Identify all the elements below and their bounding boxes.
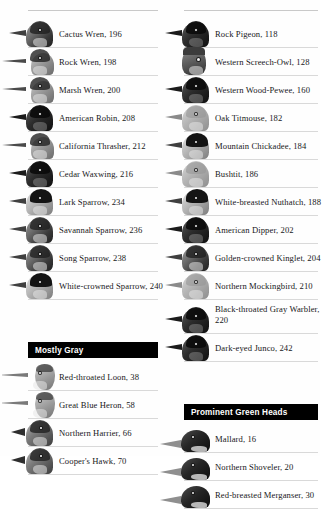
bird-head-body xyxy=(35,392,55,418)
bird-head-crown xyxy=(186,245,206,258)
bird-head-throat xyxy=(33,206,47,215)
bird-head-eye xyxy=(195,343,197,345)
bird-head-throat xyxy=(189,178,203,187)
list-item[interactable]: California Thrasher, 212 xyxy=(28,132,158,160)
bird-head-eye xyxy=(39,400,41,402)
list-item[interactable]: Northern Shoveler, 20 xyxy=(184,453,318,481)
bird-head-throat xyxy=(189,234,203,243)
list-item[interactable]: Northern Mockingbird, 210 xyxy=(184,272,318,300)
list-item[interactable]: Red-breasted Merganser, 30 xyxy=(184,481,318,509)
list-item-label: White-crowned Sparrow, 240 xyxy=(59,280,167,291)
bird-head-rock-wren-icon xyxy=(2,47,56,75)
list-item-label: White-breasted Nuthatch, 188 xyxy=(215,196,326,207)
bird-head-throat xyxy=(191,446,207,452)
bird-head-american-robin-icon xyxy=(2,103,56,131)
bird-head-eye xyxy=(39,85,41,87)
bird-head-beak xyxy=(2,87,26,91)
list-item[interactable]: Cooper's Hawk, 70 xyxy=(28,447,158,475)
list-item[interactable]: Mountain Chickadee, 184 xyxy=(184,132,318,160)
list-item[interactable]: Northern Harrier, 66 xyxy=(28,419,158,447)
bird-head-throat xyxy=(189,150,203,159)
list-item[interactable]: Rock Wren, 198 xyxy=(28,48,158,76)
bird-head-beak xyxy=(165,226,182,232)
bird-head-body xyxy=(26,106,53,131)
bird-head-crown xyxy=(30,161,50,174)
section-header: Prominent Green Heads xyxy=(184,404,318,420)
bird-head-eye xyxy=(39,57,41,59)
bird-head-red-breasted-merganser-icon xyxy=(158,480,212,508)
list-item[interactable]: Great Blue Heron, 58 xyxy=(28,391,158,419)
bird-head-eye xyxy=(195,141,197,143)
bird-head-eye xyxy=(192,492,194,494)
list-item[interactable]: Western Screech-Owl, 128 xyxy=(184,48,318,76)
bird-head-eye xyxy=(195,253,197,255)
list-item[interactable]: Rock Pigeon, 118 xyxy=(184,20,318,48)
right-column: Rock Pigeon, 118Western Screech-Owl, 128… xyxy=(160,10,320,456)
bird-head-western-screech-owl-icon xyxy=(158,47,212,75)
bird-head-beak xyxy=(165,114,182,120)
bird-head-throat xyxy=(33,150,47,159)
bird-head-body xyxy=(182,48,206,75)
bird-head-body xyxy=(26,22,53,47)
list-item-label: Black-throated Gray Warbler, 220 xyxy=(215,304,326,325)
bird-head-black-throated-gray-warbler-icon xyxy=(158,303,212,333)
list-item[interactable]: Bushtit, 186 xyxy=(184,160,318,188)
bird-head-throat xyxy=(189,38,203,47)
list-item[interactable]: White-crowned Sparrow, 240 xyxy=(28,272,158,300)
bird-head-body xyxy=(31,53,54,75)
bird-head-body xyxy=(26,246,53,271)
bird-head-body xyxy=(182,308,209,333)
bird-head-body xyxy=(181,486,210,508)
list-item[interactable]: American Robin, 208 xyxy=(28,104,158,132)
bird-head-beak xyxy=(9,114,26,120)
right-column-body: Rock Pigeon, 118Western Screech-Owl, 128… xyxy=(184,20,320,509)
list-item[interactable]: Oak Titmouse, 182 xyxy=(184,104,318,132)
list-item-label: Red-breasted Merganser, 30 xyxy=(215,489,326,500)
bird-head-throat xyxy=(189,66,203,75)
list-item[interactable]: Mallard, 16 xyxy=(184,425,318,453)
list-item-label: Rock Pigeon, 118 xyxy=(215,28,326,39)
bird-head-golden-crowned-kinglet-icon xyxy=(158,243,212,271)
bird-head-marsh-wren-icon xyxy=(2,75,56,103)
bird-head-beak xyxy=(2,401,28,405)
bird-head-body xyxy=(182,106,209,131)
bird-head-oak-titmouse-icon xyxy=(158,103,212,131)
list-item[interactable]: Cedar Waxwing, 216 xyxy=(28,160,158,188)
list-item[interactable]: Golden-crowned Kinglet, 204 xyxy=(184,244,318,272)
bird-head-white-crowned-sparrow-icon xyxy=(2,271,56,299)
bird-head-body xyxy=(31,81,54,103)
list-item[interactable]: White-breasted Nuthatch, 188 xyxy=(184,188,318,216)
list-item[interactable]: Western Wood-Pewee, 160 xyxy=(184,76,318,104)
list-item[interactable]: Dark-eyed Junco, 242 xyxy=(184,334,318,362)
list-item-label: Northern Shoveler, 20 xyxy=(215,461,326,472)
bird-head-crown xyxy=(186,189,208,203)
list-item[interactable]: Red-throated Loon, 38 xyxy=(28,363,158,391)
bird-head-throat xyxy=(33,465,47,474)
bird-head-eye xyxy=(39,29,41,31)
bird-head-eye xyxy=(197,58,200,61)
bird-head-throat xyxy=(33,409,47,418)
list-item[interactable]: Black-throated Gray Warbler, 220 xyxy=(184,300,318,334)
bird-head-crown xyxy=(30,217,50,230)
bird-head-western-wood-pewee-icon xyxy=(158,75,212,103)
list-item[interactable]: Cactus Wren, 196 xyxy=(28,20,158,48)
bird-head-cedar-waxwing-icon xyxy=(2,159,56,187)
list-item[interactable]: Savannah Sparrow, 236 xyxy=(28,216,158,244)
list-item[interactable]: Marsh Wren, 200 xyxy=(28,76,158,104)
bird-head-throat xyxy=(33,234,47,243)
bird-head-crown xyxy=(30,21,50,34)
bird-head-throat xyxy=(33,66,47,75)
bird-head-eye xyxy=(39,141,41,143)
list-item[interactable]: American Dipper, 202 xyxy=(184,216,318,244)
bird-head-eye xyxy=(195,225,197,227)
bird-head-eye xyxy=(39,113,41,115)
bird-head-eye xyxy=(195,113,197,115)
bird-head-crown xyxy=(186,273,206,286)
bird-head-beak xyxy=(165,316,182,322)
bird-head-body xyxy=(181,458,210,480)
bird-head-eye xyxy=(192,436,194,438)
list-item[interactable]: Song Sparrow, 238 xyxy=(28,244,158,272)
section-gap xyxy=(28,300,160,342)
list-item[interactable]: Lark Sparrow, 234 xyxy=(28,188,158,216)
